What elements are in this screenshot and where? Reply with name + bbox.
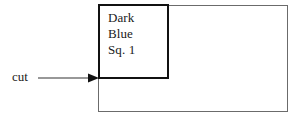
- cut-arrow-head: [88, 74, 99, 83]
- cut-arrow-icon: [38, 68, 100, 88]
- quilt-cutting-diagram: Dark Blue Sq. 1 cut: [0, 0, 301, 120]
- label-line-3: Sq. 1: [108, 42, 166, 58]
- dark-blue-square-label: Dark Blue Sq. 1: [108, 10, 166, 58]
- label-line-1: Dark: [108, 10, 166, 26]
- label-line-2: Blue: [108, 26, 166, 42]
- cut-annotation-label: cut: [12, 69, 28, 85]
